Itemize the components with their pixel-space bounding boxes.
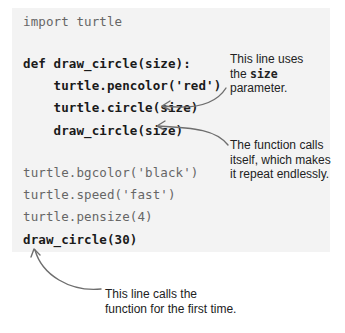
arrow-to-first-call-icon — [35, 250, 101, 289]
arrow-to-recursive-call-icon — [158, 126, 228, 145]
annotation-arrows — [0, 0, 345, 333]
arrow-to-circle-line-icon — [163, 88, 226, 107]
